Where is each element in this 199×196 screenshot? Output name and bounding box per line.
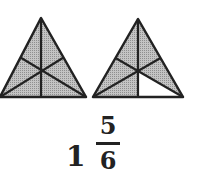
fraction-numerator: 5 [95, 112, 121, 140]
fraction: 5 6 [95, 112, 121, 175]
triangle-five-sixths-shaded [93, 19, 183, 97]
triangles-figure [0, 0, 199, 110]
fraction-denominator: 6 [95, 147, 121, 175]
mixed-number-whole: 1 [66, 140, 85, 173]
fraction-bar [96, 142, 120, 145]
triangle-fully-shaded [0, 18, 86, 97]
